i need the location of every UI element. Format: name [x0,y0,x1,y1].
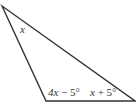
angle-label-bottom-left-var: 4x [48,86,59,98]
triangle-diagram: x 4x − 5° x + 5° [0,0,136,106]
angle-label-top: x [19,23,25,35]
angle-label-bottom-right: x + 5° [89,86,117,98]
angle-label-bottom-left: 4x − 5° [48,86,80,98]
angle-label-bottom-right-rest: + 5° [95,86,117,98]
angle-label-bottom-left-rest: − 5° [58,86,80,98]
